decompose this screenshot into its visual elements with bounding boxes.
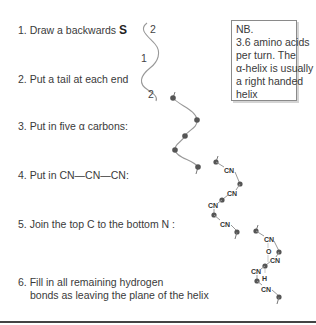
alpha-carbon-dot: [182, 133, 188, 139]
cn-chain: CN CN CN CN: [208, 156, 243, 239]
s-label-middle: 1: [141, 52, 147, 64]
cn-label: CN: [264, 236, 274, 243]
s-label-bottom: 2: [148, 88, 154, 100]
oxygen-label: O: [266, 248, 272, 255]
h-bonded-helix: CN O CN CN H CN: [251, 225, 282, 304]
cn-label: CN: [220, 221, 230, 228]
alpha-carbon-helix: [170, 92, 201, 174]
alpha-carbon-dot: [194, 117, 200, 123]
cn-label: CN: [208, 202, 218, 209]
alpha-carbon-dot: [172, 147, 178, 153]
alpha-carbon-dot: [195, 164, 201, 170]
cn-label: CN: [227, 190, 237, 197]
s-label-top: 2: [150, 23, 156, 35]
cn-label: CN: [270, 257, 280, 264]
bottom-rule: [0, 321, 316, 323]
cn-label: CN: [251, 268, 261, 275]
hydrogen-label: H: [262, 275, 267, 282]
cn-label: CN: [224, 167, 234, 174]
alpha-carbon-dot: [170, 95, 176, 101]
helix-diagram: 2 1 2 CN CN CN CN C: [0, 0, 316, 325]
cn-label: CN: [261, 286, 271, 293]
